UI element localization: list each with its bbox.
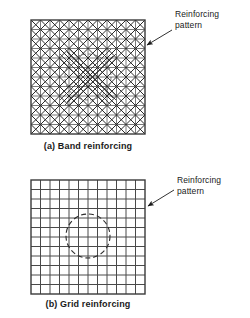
- panel-b-grid-reinforcing: [31, 180, 174, 294]
- panel-b-callout-arrow: [148, 190, 174, 206]
- panel-b-base-grid: [31, 180, 145, 294]
- panel-b-callout-label: Reinforcing pattern: [177, 175, 221, 196]
- panel-a-caption: (a) Band reinforcing: [8, 141, 168, 151]
- panel-b-callout-line1: Reinforcing: [177, 175, 221, 186]
- panel-b-pattern: [31, 180, 145, 294]
- panel-a-callout-label: Reinforcing pattern: [175, 9, 219, 30]
- figure-canvas: [0, 0, 250, 318]
- panel-a-band-reinforcing: [31, 20, 172, 134]
- panel-b-caption: (b) Grid reinforcing: [8, 299, 168, 309]
- panel-a-callout-line1: Reinforcing: [175, 9, 219, 20]
- panel-a-callout-line2: pattern: [175, 20, 219, 31]
- panel-b-callout-line2: pattern: [177, 186, 221, 197]
- panel-a-callout-arrow: [147, 30, 172, 45]
- panel-a-pattern: [31, 20, 145, 134]
- reinforcing-patterns-figure: Reinforcing pattern Reinforcing pattern …: [0, 0, 250, 318]
